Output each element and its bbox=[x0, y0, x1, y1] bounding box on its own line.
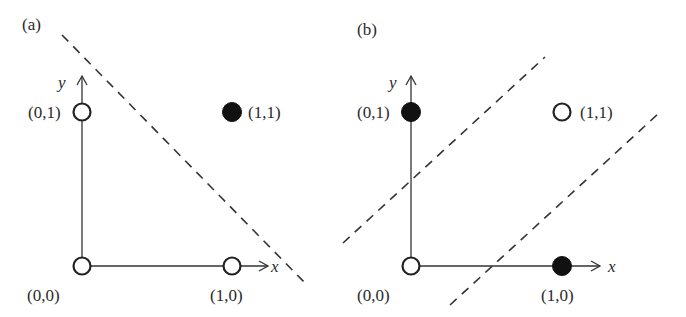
panel-b-decision-line-lower bbox=[450, 114, 658, 305]
panel-a-label-0-1: (0,1) bbox=[28, 103, 61, 122]
panel-a-label-0-0: (0,0) bbox=[27, 286, 60, 305]
panel-a-label: (a) bbox=[22, 15, 41, 34]
xor-diagram: (a) y x (0,1) (1,1) (0,0) (1,0) (b) y x … bbox=[0, 0, 686, 317]
panel-b: (b) y x (0,1) (1,1) (0,0) (1,0) bbox=[343, 20, 658, 305]
panel-a-label-1-1: (1,1) bbox=[248, 103, 281, 122]
panel-b-y-axis-label: y bbox=[387, 73, 397, 92]
panel-a-point-0-0 bbox=[74, 258, 91, 275]
panel-b-label: (b) bbox=[357, 20, 377, 39]
panel-b-label-1-0: (1,0) bbox=[541, 286, 574, 305]
panel-b-label-1-1: (1,1) bbox=[580, 103, 613, 122]
panel-b-label-0-0: (0,0) bbox=[357, 286, 390, 305]
panel-a-label-1-0: (1,0) bbox=[210, 286, 243, 305]
panel-b-point-1-1 bbox=[554, 104, 571, 121]
panel-a-point-0-1 bbox=[74, 104, 91, 121]
panel-a-point-1-1 bbox=[223, 103, 242, 122]
panel-b-point-1-0 bbox=[553, 257, 572, 276]
panel-a-y-axis-label: y bbox=[56, 73, 66, 92]
panel-a: (a) y x (0,1) (1,1) (0,0) (1,0) bbox=[22, 15, 307, 305]
panel-a-x-axis-label: x bbox=[270, 257, 279, 276]
panel-b-decision-line-upper bbox=[343, 57, 545, 243]
panel-b-point-0-0 bbox=[403, 258, 420, 275]
panel-a-point-1-0 bbox=[224, 258, 241, 275]
panel-b-point-0-1 bbox=[402, 103, 421, 122]
panel-b-label-0-1: (0,1) bbox=[357, 103, 390, 122]
panel-b-x-axis-label: x bbox=[607, 257, 616, 276]
panel-a-decision-line bbox=[62, 35, 307, 285]
